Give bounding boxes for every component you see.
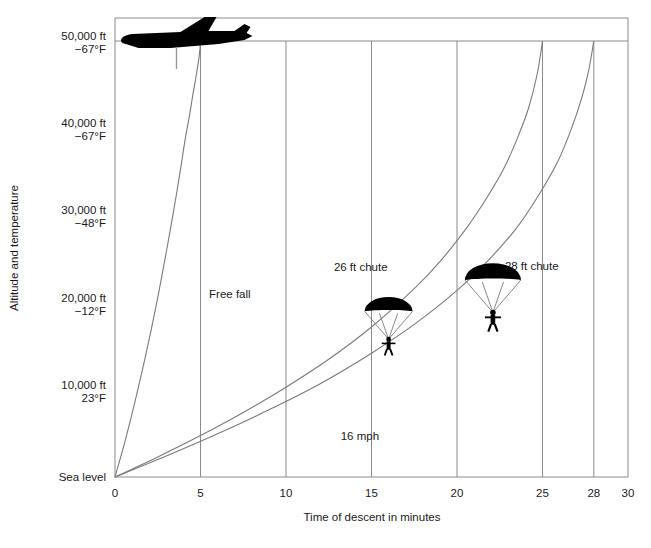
jumper-torso <box>491 315 496 325</box>
x-tick-15: 15 <box>365 487 378 499</box>
curve-free-fall <box>115 41 201 477</box>
jumper-head <box>386 337 391 342</box>
jumper-leg-right <box>390 349 392 355</box>
chart-icons <box>121 17 521 356</box>
y-tick-temperature-50k: −67°F <box>75 43 106 55</box>
y-tick-altitude-20k: 20,000 ft <box>61 292 107 304</box>
annotation-chute-28: 28 ft chute <box>505 260 559 272</box>
chute-line-midright <box>493 282 504 312</box>
y-tick-temperature-30k: −48°F <box>75 217 106 229</box>
x-tick-5: 5 <box>197 487 203 499</box>
jumper-head <box>490 310 496 316</box>
airplane-icon <box>121 17 253 69</box>
y-tick-altitude-30k: 30,000 ft <box>61 204 107 216</box>
descent-chart: 05101520252830 50,000 ft−67°F40,000 ft−6… <box>0 0 651 548</box>
series-curves <box>115 41 594 477</box>
chart-annotations: Free fall16 mph26 ft chute28 ft chute <box>209 260 559 442</box>
chute-line-midright <box>389 313 398 339</box>
x-tick-0: 0 <box>112 487 118 499</box>
x-tick-25: 25 <box>536 487 549 499</box>
jumper-leg-left <box>385 349 387 355</box>
chute-line-left <box>465 280 493 312</box>
y-tick-altitude-50k: 50,000 ft <box>61 30 107 42</box>
chute-line-midleft <box>379 313 388 339</box>
jumper-leg-left <box>488 324 491 331</box>
x-tick-10: 10 <box>280 487 293 499</box>
annotation-chute-26: 26 ft chute <box>334 261 388 273</box>
y-tick-temperature-40k: −67°F <box>75 130 106 142</box>
x-tick-30: 30 <box>622 487 635 499</box>
gridlines <box>201 41 594 477</box>
y-tick-temperature-10k: 23°F <box>82 392 106 404</box>
chute-line-midleft <box>482 282 493 312</box>
y-tick-temperature-20k: −12°F <box>75 305 106 317</box>
x-axis-title: Time of descent in minutes <box>304 511 441 523</box>
airplane-body <box>121 17 253 48</box>
y-tick-altitude-sea-level: Sea level <box>59 471 106 483</box>
annotation-speed: 16 mph <box>341 430 379 442</box>
y-axis-ticks: 50,000 ft−67°F40,000 ft−67°F30,000 ft−48… <box>59 30 107 483</box>
jumper-leg-right <box>495 324 498 331</box>
y-tick-altitude-40k: 40,000 ft <box>61 117 107 129</box>
x-tick-20: 20 <box>451 487 464 499</box>
curve-26-ft-chute <box>115 41 543 477</box>
x-tick-28: 28 <box>587 487 600 499</box>
parachutist-28ft-icon <box>465 263 521 331</box>
chute-line-right <box>389 311 413 339</box>
y-tick-altitude-10k: 10,000 ft <box>61 379 107 391</box>
x-axis-ticks: 05101520252830 <box>112 487 635 499</box>
y-axis-title: Altitude and temperature <box>8 185 20 311</box>
jumper-torso <box>387 341 391 349</box>
curve-28-ft-chute <box>115 41 594 477</box>
annotation-free-fall: Free fall <box>209 288 251 300</box>
chart-canvas: 05101520252830 50,000 ft−67°F40,000 ft−6… <box>0 0 651 548</box>
chute-line-right <box>493 280 521 312</box>
